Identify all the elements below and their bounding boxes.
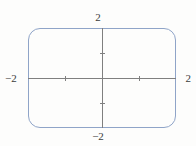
y-axis-tick-negative-one	[100, 103, 105, 104]
coordinate-graph: 2 −2 −2 2	[0, 0, 196, 146]
x-axis-tick-positive-one	[139, 76, 140, 81]
x-axis-max-label: 2	[186, 73, 192, 84]
y-axis-max-label: 2	[0, 12, 196, 23]
x-axis-min-label: −2	[5, 73, 17, 84]
y-axis-line	[102, 28, 103, 128]
y-axis-min-label: −2	[0, 131, 196, 142]
x-axis-tick-negative-one	[65, 76, 66, 81]
y-axis-tick-positive-one	[100, 53, 105, 54]
